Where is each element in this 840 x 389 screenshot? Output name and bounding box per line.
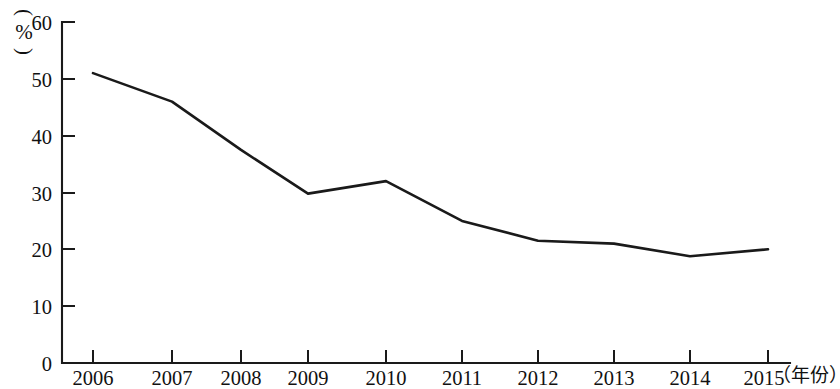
y-tick-label-50: 50 — [32, 69, 53, 91]
y-tick-label-10: 10 — [32, 296, 53, 318]
x-tick-label-2013: 2013 — [594, 367, 635, 389]
data-series-line — [93, 73, 768, 256]
y-tick-label-40: 40 — [32, 126, 53, 148]
x-axis-tick-labels: 2006 2007 2008 2009 2010 2011 2012 2013 … — [73, 367, 785, 389]
x-tick-label-2007: 2007 — [152, 367, 193, 389]
x-axis-unit-label: （年份） — [772, 360, 840, 387]
x-tick-label-2009: 2009 — [288, 367, 329, 389]
y-axis-unit-label: ( % ) — [2, 6, 46, 70]
chart-canvas: 60 50 40 30 20 10 0 2006 2007 2008 2009 … — [0, 0, 840, 389]
y-unit-close-paren: ) — [18, 30, 31, 74]
axis-lines — [62, 22, 790, 363]
y-axis-ticks — [62, 22, 75, 306]
y-tick-label-30: 30 — [32, 183, 53, 205]
x-tick-label-2010: 2010 — [366, 367, 407, 389]
x-tick-label-2014: 2014 — [670, 367, 711, 389]
y-tick-label-0: 0 — [42, 353, 52, 375]
x-tick-label-2006: 2006 — [73, 367, 114, 389]
x-axis-ticks — [93, 350, 768, 363]
x-tick-label-2011: 2011 — [442, 367, 482, 389]
line-chart: 60 50 40 30 20 10 0 2006 2007 2008 2009 … — [0, 0, 840, 389]
x-tick-label-2008: 2008 — [221, 367, 262, 389]
x-tick-label-2012: 2012 — [518, 367, 559, 389]
y-tick-label-20: 20 — [32, 239, 53, 261]
